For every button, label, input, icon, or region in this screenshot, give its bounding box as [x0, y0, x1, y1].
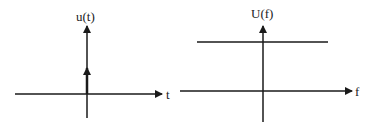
- left-plot: [15, 26, 162, 118]
- left-x-axis-label: t: [166, 88, 170, 101]
- right-x-axis-label: f: [355, 85, 359, 98]
- plots-svg: [0, 0, 372, 129]
- diagram-canvas: u(t) t U(f) f: [0, 0, 372, 129]
- left-plot-title: u(t): [76, 10, 95, 23]
- right-plot: [180, 26, 352, 122]
- right-plot-title: U(f): [251, 7, 273, 20]
